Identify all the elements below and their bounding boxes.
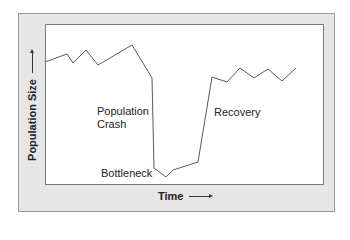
arrow-right-icon	[189, 196, 211, 197]
y-axis-label: Population Size	[26, 51, 38, 161]
crash-label: Population Crash	[97, 105, 149, 131]
x-axis-title: Time	[158, 190, 183, 202]
x-axis-label: Time	[158, 190, 211, 202]
recovery-label: Recovery	[214, 106, 260, 119]
crash-label-line2: Crash	[97, 118, 149, 131]
bottleneck-label: Bottleneck	[101, 167, 152, 180]
arrow-up-icon	[32, 51, 33, 73]
y-axis-title: Population Size	[26, 79, 38, 161]
crash-label-line1: Population	[97, 105, 149, 118]
